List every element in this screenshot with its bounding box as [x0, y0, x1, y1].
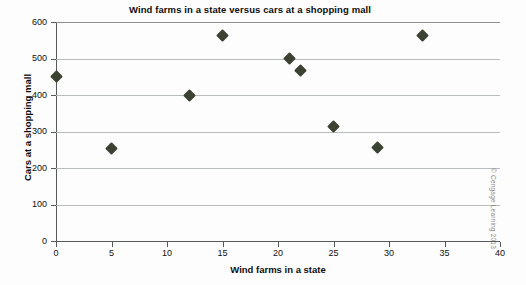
gridline	[56, 59, 500, 60]
gridline	[56, 95, 500, 96]
x-axis-tick	[334, 242, 335, 247]
y-axis-tick-label: 0	[7, 237, 47, 246]
chart-title: Wind farms in a state versus cars at a s…	[0, 4, 500, 15]
plot-area	[56, 22, 500, 241]
x-axis-tick	[223, 242, 224, 247]
gridline	[56, 132, 500, 133]
x-axis-tick	[167, 242, 168, 247]
data-point	[416, 29, 429, 42]
x-axis-tick-label: 0	[41, 249, 71, 258]
data-point	[294, 64, 307, 77]
x-axis-tick-label: 10	[152, 249, 182, 258]
x-axis-tick	[278, 242, 279, 247]
x-axis-tick	[500, 242, 501, 247]
x-axis-title: Wind farms in a state	[56, 264, 500, 275]
x-axis-tick-label: 30	[374, 249, 404, 258]
x-axis-tick-label: 40	[485, 249, 515, 258]
data-point	[216, 29, 229, 42]
gridline	[56, 22, 500, 23]
y-axis-title: Cars at a shopping mall	[22, 38, 33, 218]
y-axis-tick-label: 600	[7, 18, 47, 27]
x-axis-tick-label: 15	[208, 249, 238, 258]
data-point	[105, 142, 118, 155]
x-axis-tick-label: 20	[263, 249, 293, 258]
gridline	[56, 205, 500, 206]
gridline	[56, 168, 500, 169]
y-axis-tick	[51, 205, 56, 206]
data-point	[50, 70, 63, 83]
x-axis-tick	[389, 242, 390, 247]
y-axis-tick	[51, 22, 56, 23]
x-axis-tick-label: 35	[430, 249, 460, 258]
x-axis-tick	[112, 242, 113, 247]
x-axis-tick-label: 25	[319, 249, 349, 258]
x-axis-tick-label: 5	[97, 249, 127, 258]
copyright-credit: © Cengage Learning 2013	[490, 168, 497, 278]
x-axis-tick	[445, 242, 446, 247]
chart-figure: Wind farms in a state versus cars at a s…	[0, 0, 526, 285]
y-axis-tick	[51, 168, 56, 169]
x-axis-tick	[56, 242, 57, 247]
y-axis-tick	[51, 132, 56, 133]
y-axis-tick	[51, 95, 56, 96]
y-axis-tick	[51, 59, 56, 60]
data-point	[372, 141, 385, 154]
data-point	[283, 52, 296, 65]
data-point	[183, 89, 196, 102]
